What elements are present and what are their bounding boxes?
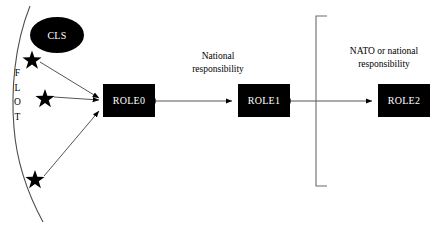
- caption-national-responsibility: National responsibility: [168, 50, 268, 75]
- flot-letter-o: O: [14, 95, 21, 110]
- diagram-canvas: F L O T CLS ROLE0 ROLE1 ROLE2 National r…: [0, 0, 442, 226]
- flot-letter-l: L: [15, 81, 21, 96]
- casualty-star-2: [35, 89, 54, 107]
- caption-nato-line1: NATO or national: [333, 45, 435, 58]
- node-role2[interactable]: ROLE2: [378, 84, 430, 117]
- casualty-3-connector: [44, 111, 99, 176]
- flot-letter-t: T: [15, 110, 21, 125]
- node-cls-label: CLS: [47, 30, 66, 41]
- caption-national-line2: responsibility: [168, 63, 268, 76]
- node-role2-label: ROLE2: [388, 95, 421, 106]
- casualty-1-connector: [40, 62, 99, 98]
- casualty-star-3: [25, 170, 44, 188]
- caption-nato-responsibility: NATO or national responsibility: [333, 45, 435, 70]
- casualty-2-connector: [54, 97, 99, 100]
- casualty-star-1: [22, 51, 41, 69]
- node-role0-label: ROLE0: [113, 95, 146, 106]
- caption-national-line1: National: [168, 50, 268, 63]
- flot-letter-f: F: [15, 66, 20, 81]
- node-cls[interactable]: CLS: [30, 17, 84, 53]
- flot-label: F L O T: [14, 66, 21, 124]
- node-role1[interactable]: ROLE1: [238, 84, 290, 117]
- node-role0[interactable]: ROLE0: [103, 84, 155, 117]
- caption-nato-line2: responsibility: [333, 58, 435, 71]
- node-role1-label: ROLE1: [248, 95, 281, 106]
